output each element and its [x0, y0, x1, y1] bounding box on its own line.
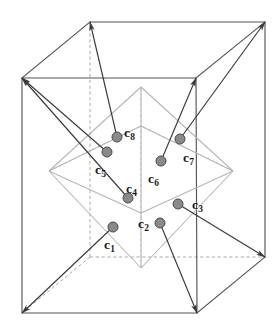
site-dot-c1 — [108, 222, 118, 232]
site-dot-c7 — [175, 134, 185, 144]
site-dot-c8 — [112, 132, 122, 142]
vector-c2 — [160, 223, 197, 313]
site-label-c4: c4 — [126, 182, 137, 196]
site-label-c7: c7 — [183, 151, 194, 165]
lattice-diagram-figure: c1 c2 c3 c4 c5 c6 c7 c8 — [0, 0, 278, 327]
site-label-c3: c3 — [192, 198, 203, 212]
vector-c8 — [90, 22, 117, 137]
site-label-c8: c8 — [124, 126, 135, 140]
site-dot-c5 — [102, 147, 112, 157]
site-label-c5: c5 — [95, 163, 106, 177]
site-dot-c2 — [155, 218, 165, 228]
site-label-c1: c1 — [104, 238, 115, 252]
diagram-canvas — [0, 0, 278, 327]
vector-c6 — [161, 78, 196, 161]
site-dot-c6 — [156, 156, 166, 166]
site-dot-c3 — [173, 199, 183, 209]
vector-c5 — [22, 78, 107, 152]
octahedron-visible-edges — [49, 87, 233, 268]
vector-c7 — [180, 22, 265, 139]
site-label-c6: c6 — [148, 172, 159, 186]
vector-c1 — [22, 227, 113, 313]
site-label-c2: c2 — [138, 217, 149, 231]
